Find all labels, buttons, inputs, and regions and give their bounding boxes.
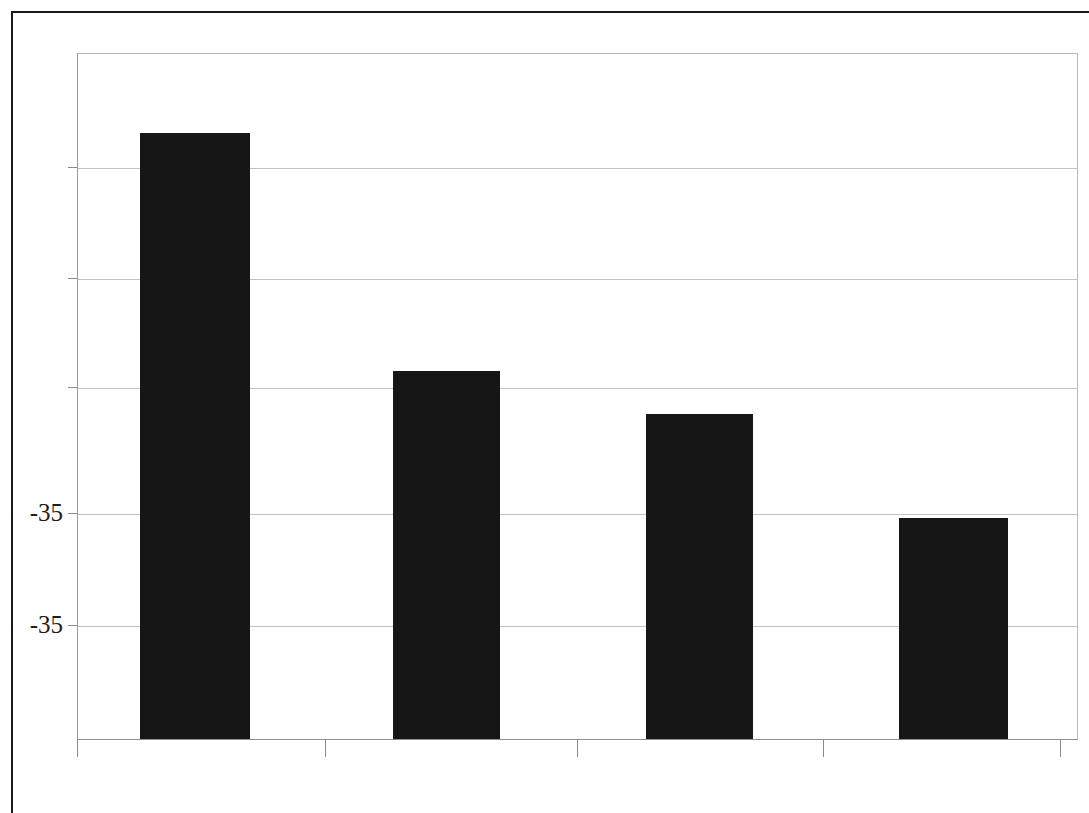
chart-screenshot: -35-35 — [0, 0, 1089, 813]
bar-chart-figure: -35-35 — [0, 0, 1089, 813]
bar-3 — [646, 414, 753, 739]
y-tick-mark — [68, 167, 77, 168]
x-tick-mark — [77, 740, 78, 757]
y-tick-mark — [68, 278, 77, 279]
bar-1 — [140, 133, 250, 739]
bar-2 — [393, 371, 500, 739]
y-tick-mark — [68, 387, 77, 388]
x-tick-mark — [577, 740, 578, 757]
x-tick-mark — [823, 740, 824, 757]
y-tick-label: -35 — [0, 500, 63, 525]
y-tick-mark — [68, 513, 77, 514]
y-tick-label: -35 — [0, 612, 63, 637]
y-tick-mark — [68, 625, 77, 626]
y-axis-line — [77, 53, 78, 740]
x-tick-mark — [1060, 740, 1061, 757]
bar-4 — [899, 518, 1008, 739]
x-tick-mark — [325, 740, 326, 757]
